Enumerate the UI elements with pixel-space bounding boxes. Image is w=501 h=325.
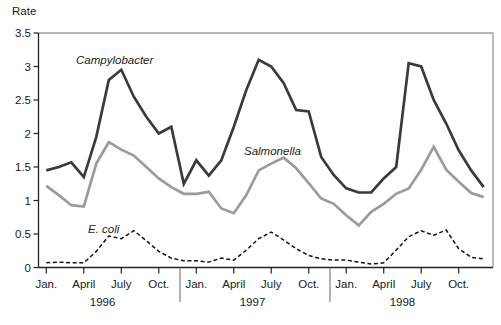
year-label: 1998 — [390, 296, 416, 308]
ecoli-line — [46, 230, 483, 264]
y-tick-label: 1.5 — [15, 161, 31, 173]
x-tick-label: Jan. — [35, 278, 57, 290]
x-tick-label: July — [411, 278, 432, 290]
year-label: 1996 — [90, 296, 116, 308]
x-tick-label: Jan. — [335, 278, 357, 290]
incidence-rate-chart: 00.511.522.533.5 Jan.AprilJulyOct.Jan.Ap… — [0, 0, 501, 325]
chart-canvas: 00.511.522.533.5 Jan.AprilJulyOct.Jan.Ap… — [0, 0, 501, 325]
y-tick-label: 2 — [25, 128, 31, 140]
year-label: 1997 — [240, 296, 266, 308]
y-tick-label: 0.5 — [15, 228, 31, 240]
y-tick-label: 2.5 — [15, 94, 31, 106]
y-axis-title: Rate — [12, 5, 36, 17]
x-tick-label: Oct. — [148, 278, 169, 290]
x-axis-ticks: Jan.AprilJulyOct.Jan.AprilJulyOct.Jan.Ap… — [35, 268, 469, 291]
year-labels-row: 199619971998 — [90, 268, 416, 309]
campylobacter-label: Campylobacter — [76, 54, 155, 66]
ecoli-label: E. coli — [88, 223, 120, 235]
x-tick-label: April — [372, 278, 395, 290]
salmonella-label: Salmonella — [244, 145, 301, 157]
x-tick-label: Oct. — [448, 278, 469, 290]
y-axis-ticks: 00.511.522.533.5 — [15, 27, 39, 274]
x-tick-label: July — [261, 278, 282, 290]
x-tick-label: Oct. — [298, 278, 319, 290]
y-tick-label: 0 — [25, 262, 31, 274]
x-tick-label: Jan. — [185, 278, 207, 290]
x-tick-label: April — [72, 278, 95, 290]
y-tick-label: 3 — [25, 61, 31, 73]
x-tick-label: July — [111, 278, 132, 290]
y-tick-label: 1 — [25, 195, 31, 207]
y-tick-label: 3.5 — [15, 27, 31, 39]
x-tick-label: April — [222, 278, 245, 290]
